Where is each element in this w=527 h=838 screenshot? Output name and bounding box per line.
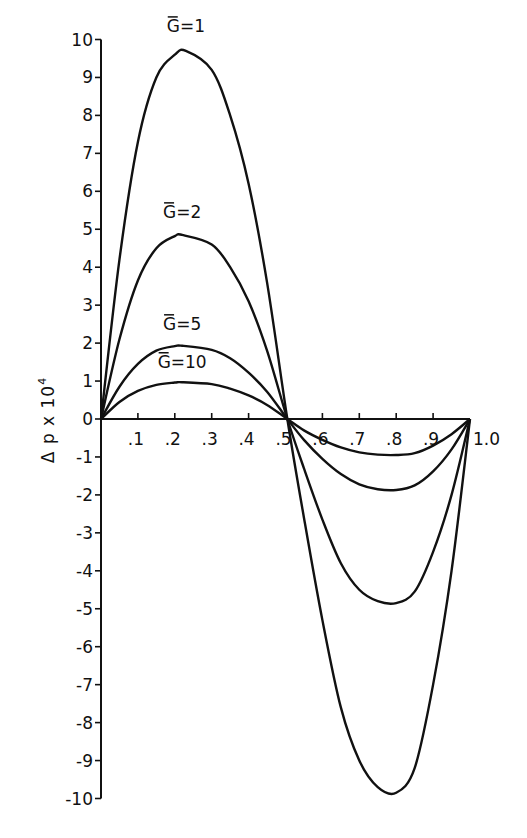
x-tick-label: .2 <box>165 429 181 449</box>
y-tick-label: 0 <box>82 409 93 429</box>
y-tick-label: -3 <box>76 523 93 543</box>
y-tick-label: 4 <box>82 257 93 277</box>
y-tick-label: 2 <box>82 333 93 353</box>
y-tick-label: 9 <box>82 67 93 87</box>
y-tick-label: 8 <box>82 105 93 125</box>
y-tick-label: -9 <box>76 751 93 771</box>
y-tick-label: -10 <box>65 789 93 809</box>
series-label: G=10 <box>158 352 207 372</box>
x-tick-label: .3 <box>202 429 218 449</box>
chart-container: 109876543210-1-2-3-4-5-6-7-8-9-10 .1.2.3… <box>0 0 527 838</box>
x-tick-label: 1.0 <box>473 429 500 449</box>
svg-text:Δ p x 104: Δ p x 104 <box>36 377 58 463</box>
x-tick-label: .8 <box>386 429 402 449</box>
y-tick-label: 1 <box>82 371 93 391</box>
x-tick-label: .1 <box>128 429 144 449</box>
y-tick-label: 7 <box>82 143 93 163</box>
y-tick-label: -1 <box>76 447 93 467</box>
series-label: G=1 <box>167 16 205 36</box>
series-label: G=5 <box>163 314 201 334</box>
y-tick-label: -2 <box>76 485 93 505</box>
y-tick-label: 10 <box>71 30 93 50</box>
y-tick-label: 6 <box>82 181 93 201</box>
y-axis-label: Δ p x 104 <box>36 377 58 463</box>
series-line-g-1 <box>101 50 470 794</box>
y-axis-ticks: 109876543210-1-2-3-4-5-6-7-8-9-10 <box>65 30 101 809</box>
x-tick-label: .7 <box>349 429 365 449</box>
series-label: G=2 <box>163 202 201 222</box>
y-axis-label-exponent: 4 <box>36 377 49 385</box>
y-tick-label: -4 <box>76 561 93 581</box>
y-tick-label: 5 <box>82 219 93 239</box>
x-tick-label: .4 <box>238 429 254 449</box>
y-tick-label: -5 <box>76 599 93 619</box>
y-tick-label: -7 <box>76 675 93 695</box>
y-tick-label: -6 <box>76 637 93 657</box>
y-tick-label: 3 <box>82 295 93 315</box>
line-chart: 109876543210-1-2-3-4-5-6-7-8-9-10 .1.2.3… <box>0 0 527 838</box>
y-tick-label: -8 <box>76 713 93 733</box>
series-labels: G=1G=2G=5G=10 <box>158 16 207 372</box>
y-axis-label-text: Δ p x 10 <box>38 385 58 463</box>
data-series <box>101 50 470 794</box>
